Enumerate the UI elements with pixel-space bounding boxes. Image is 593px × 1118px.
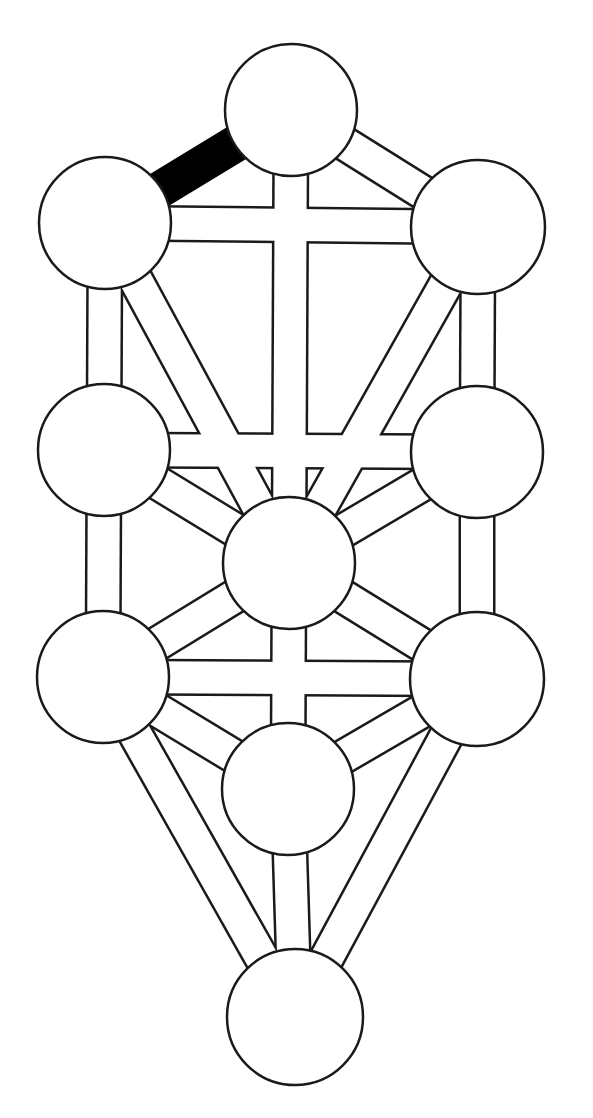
sefirah-chesed <box>38 384 170 516</box>
sefirah-hod-left <box>37 611 169 743</box>
tree-of-life-diagram <box>0 0 593 1118</box>
path-kether-tiphareth <box>289 110 291 563</box>
sefirah-chokmah <box>39 157 171 289</box>
sefirah-netzach-right <box>410 612 544 746</box>
sefirah-kether <box>225 44 357 176</box>
sefirah-malkuth <box>227 949 363 1085</box>
sefirah-geburah <box>411 386 543 518</box>
sefirah-binah <box>411 160 545 294</box>
sefirah-yesod <box>222 723 354 855</box>
sefirah-tiphareth <box>223 497 355 629</box>
